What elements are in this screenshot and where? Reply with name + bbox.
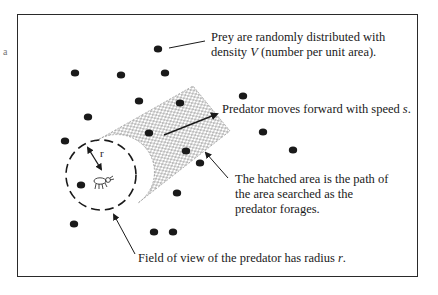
prey-dot — [161, 69, 169, 76]
field-of-view-label: Field of view of the predator has radius… — [138, 251, 346, 266]
prey-dot — [84, 113, 92, 120]
diagram-canvas: a — [0, 0, 438, 295]
hatched-search-path — [96, 86, 230, 203]
prey-dot — [169, 228, 177, 235]
prey-label-line2: density V (number per unit area). — [211, 45, 385, 60]
prey-dot — [196, 159, 204, 166]
hatched-area-label: The hatched area is the path of the area… — [235, 172, 388, 217]
prey-label: Prey are randomly distributed with densi… — [211, 30, 385, 60]
predator-speed-label: Predator moves forward with speed s. — [222, 102, 411, 117]
radius-symbol: r — [100, 146, 104, 161]
prey-dot — [135, 97, 143, 104]
prey-dot — [173, 189, 181, 196]
prey-dot — [259, 128, 267, 135]
prey-dot — [70, 220, 78, 227]
prey-dot — [61, 137, 69, 144]
prey-dot — [182, 147, 190, 154]
prey-dot — [117, 71, 125, 78]
prey-dot — [145, 129, 153, 136]
hatched-leader-line — [206, 153, 228, 178]
prey-leader-line — [169, 41, 205, 48]
prey-dot — [154, 45, 162, 52]
prey-dot — [289, 146, 297, 153]
field-leader-line — [114, 215, 135, 254]
prey-dot — [77, 181, 85, 188]
prey-dot — [71, 69, 79, 76]
prey-label-line1: Prey are randomly distributed with — [211, 30, 385, 45]
predator-insect-icon — [94, 176, 114, 189]
prey-dot — [150, 228, 158, 235]
prey-dot — [239, 92, 247, 99]
prey-dot — [176, 99, 184, 106]
